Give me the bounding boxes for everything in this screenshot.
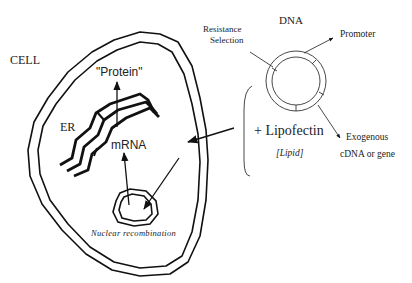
cell-label: CELL [10,54,40,66]
diagram-canvas: CELL "Protein" ER mRNA Nuclear recombina… [0,0,412,283]
entry-arrow [188,128,234,142]
selection-label: Selection [210,36,244,45]
promoter-label: Promoter [340,30,375,40]
dna-label: DNA [279,15,303,26]
import-arrow [144,158,179,209]
promoter-pointer [304,38,333,53]
nucleus [113,189,158,226]
mrna-label: mRNA [111,139,146,151]
exogenous-label: Exogenous [346,133,388,143]
dna-plasmid [266,51,326,111]
lipid-label: [Lipid] [276,149,303,159]
lipofectin-label: + Lipofectin [254,124,324,138]
er-membrane [60,94,159,176]
resistance-label: Resistance [203,25,242,34]
cdna-label: cDNA or gene [340,150,395,160]
resistance-pointer [250,52,273,67]
protein-label: "Protein" [96,66,143,78]
er-label: ER [60,121,75,133]
nucleus-label: Nuclear recombination [91,229,176,238]
complex-bracket [244,86,252,176]
